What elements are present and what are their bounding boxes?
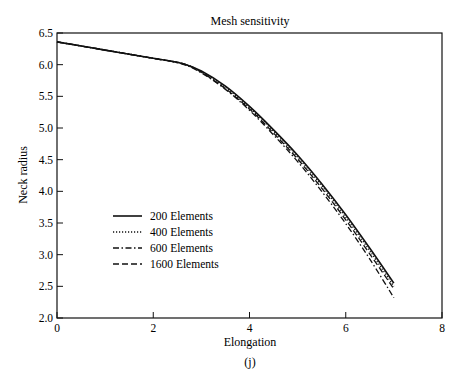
y-tick-label: 6.0	[39, 59, 54, 71]
chart-title: Mesh sensitivity	[210, 14, 289, 28]
series-line	[57, 42, 394, 298]
legend-label: 400 Elements	[150, 226, 213, 238]
x-tick-label: 4	[247, 322, 253, 334]
y-axis-label: Neck radius	[16, 146, 30, 204]
y-tick-label: 5.5	[39, 90, 54, 102]
y-tick-label: 2.0	[39, 312, 54, 324]
x-axis-ticks: 02468	[54, 312, 445, 334]
mesh-sensitivity-chart: Mesh sensitivity 2.02.53.03.54.04.55.05.…	[0, 0, 461, 384]
figure-caption: (j)	[244, 355, 255, 369]
x-tick-label: 2	[150, 322, 156, 334]
y-tick-label: 2.5	[39, 280, 54, 292]
series-line	[57, 42, 394, 286]
y-tick-label: 4.5	[39, 154, 54, 166]
y-axis-ticks: 2.02.53.03.54.04.55.05.56.06.5	[39, 27, 63, 324]
y-tick-label: 3.0	[39, 249, 54, 261]
y-tick-label: 6.5	[39, 27, 54, 39]
x-tick-label: 6	[343, 322, 349, 334]
x-tick-label: 0	[54, 322, 60, 334]
legend-label: 1600 Elements	[150, 258, 219, 270]
legend-label: 600 Elements	[150, 242, 213, 254]
y-tick-label: 5.0	[39, 122, 54, 134]
x-tick-label: 8	[439, 322, 445, 334]
x-axis-label: Elongation	[224, 335, 277, 349]
series-line	[57, 42, 394, 283]
y-tick-label: 4.0	[39, 185, 54, 197]
legend-label: 200 Elements	[150, 210, 213, 222]
series-lines	[57, 42, 394, 298]
y-tick-label: 3.5	[39, 217, 54, 229]
series-line	[57, 42, 394, 289]
legend: 200 Elements400 Elements600 Elements1600…	[113, 210, 219, 270]
